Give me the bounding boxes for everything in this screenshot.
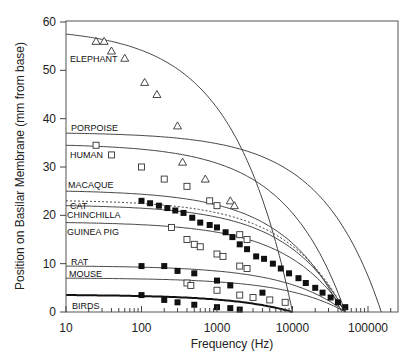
- triangle-marker: [107, 47, 115, 54]
- filled-square-marker: [189, 215, 195, 221]
- filled-square-marker: [139, 292, 145, 298]
- y-tick-label: 0: [49, 305, 56, 319]
- filled-square-marker: [214, 224, 220, 230]
- triangle-marker: [179, 158, 187, 165]
- triangle-marker: [226, 197, 234, 204]
- curve-porpoise: [66, 133, 381, 312]
- open-square-marker: [197, 244, 203, 250]
- fit-curves: [66, 34, 381, 312]
- open-square-marker: [244, 266, 250, 272]
- open-square-marker: [267, 297, 273, 303]
- filled-square-marker: [270, 261, 276, 267]
- open-square-marker: [139, 164, 145, 170]
- y-axis-ticks: 0102030405060: [43, 15, 66, 319]
- open-square-marker: [237, 232, 243, 238]
- x-tick-label: 10: [59, 321, 73, 335]
- open-square-marker: [108, 152, 114, 158]
- filled-square-marker: [303, 280, 309, 286]
- curve-rat: [66, 266, 345, 312]
- open-square-marker: [244, 237, 250, 243]
- filled-square-marker: [253, 253, 259, 259]
- open-square-marker: [207, 198, 213, 204]
- filled-square-marker: [172, 208, 178, 214]
- label-guinea-pig: GUINEA PIG: [67, 227, 119, 237]
- filled-square-marker: [312, 285, 318, 291]
- filled-square-marker: [161, 263, 167, 269]
- triangle-marker: [141, 78, 149, 85]
- filled-square-marker: [147, 200, 153, 206]
- label-macaque: MACAQUE: [68, 180, 114, 190]
- open-square-marker: [169, 224, 175, 230]
- filled-square-marker: [244, 246, 250, 252]
- filled-square-marker: [259, 290, 265, 296]
- filled-square-marker: [156, 203, 162, 209]
- label-birds: BIRDS: [72, 301, 100, 311]
- open-square-marker: [214, 203, 220, 209]
- x-tick-label: 1000: [204, 321, 231, 335]
- filled-square-marker: [191, 270, 197, 276]
- open-square-marker: [237, 263, 243, 269]
- open-square-marker: [282, 299, 288, 305]
- triangle-marker: [201, 175, 209, 182]
- y-tick-label: 50: [43, 63, 57, 77]
- filled-square-marker: [320, 290, 326, 296]
- x-tick-label: 100: [131, 321, 151, 335]
- y-tick-label: 60: [43, 15, 57, 29]
- label-rat: RAT: [71, 257, 89, 267]
- open-square-marker: [184, 183, 190, 189]
- triangle-marker: [153, 91, 161, 98]
- plot-frame: [66, 21, 398, 312]
- x-tick-label: 100000: [348, 321, 388, 335]
- filled-square-marker: [207, 222, 213, 228]
- filled-square-marker: [197, 220, 203, 226]
- open-square-marker: [220, 253, 226, 259]
- filled-square-marker: [286, 270, 292, 276]
- filled-square-marker: [229, 234, 235, 240]
- label-human: HUMAN: [70, 150, 103, 160]
- triangle-marker: [174, 122, 182, 129]
- label-chinchilla: CHINCHILLA: [67, 210, 121, 220]
- filled-square-marker: [223, 229, 229, 235]
- open-square-marker: [191, 241, 197, 247]
- filled-square-marker: [181, 210, 187, 216]
- open-square-marker: [161, 176, 167, 182]
- filled-square-marker: [295, 275, 301, 281]
- open-square-marker: [214, 287, 220, 293]
- filled-square-marker: [328, 295, 334, 301]
- filled-square-marker: [237, 241, 243, 247]
- y-tick-label: 40: [43, 112, 57, 126]
- filled-square-marker: [175, 268, 181, 274]
- y-tick-label: 30: [43, 160, 57, 174]
- x-axis-title: Frequency (Hz): [191, 337, 274, 351]
- x-tick-label: 10000: [276, 321, 310, 335]
- filled-square-marker: [227, 305, 233, 311]
- filled-square-marker: [227, 282, 233, 288]
- filled-square-marker: [261, 256, 267, 262]
- open-square-marker: [184, 237, 190, 243]
- label-elephant: ELEPHANT: [70, 54, 118, 64]
- y-tick-label: 20: [43, 208, 57, 222]
- filled-square-marker: [139, 198, 145, 204]
- filled-square-marker: [161, 297, 167, 303]
- open-square-marker: [250, 295, 256, 301]
- triangle-marker: [121, 54, 129, 61]
- filled-square-marker: [164, 205, 170, 211]
- open-square-marker: [93, 142, 99, 148]
- y-tick-label: 10: [43, 257, 57, 271]
- label-mouse: MOUSE: [69, 269, 102, 279]
- open-square-marker: [237, 292, 243, 298]
- filled-square-marker: [278, 266, 284, 272]
- label-porpoise: PORPOISE: [71, 123, 118, 133]
- filled-square-marker: [191, 302, 197, 308]
- filled-square-marker: [175, 299, 181, 305]
- filled-square-marker: [214, 278, 220, 284]
- filled-square-marker: [335, 299, 341, 305]
- filled-square-marker: [139, 263, 145, 269]
- open-square-marker: [188, 282, 194, 288]
- open-square-marker: [214, 251, 220, 257]
- cochlear-map-chart: 10100100010000100000 0102030405060 ELEPH…: [0, 0, 413, 363]
- y-axis-title: Position on Basilar Membrane (mm from ba…: [13, 42, 27, 290]
